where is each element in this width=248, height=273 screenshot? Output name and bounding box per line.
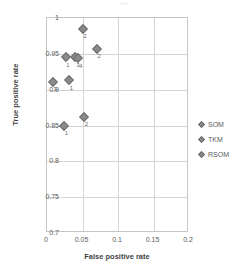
legend-item-label: TKM [208, 136, 223, 143]
data-point [79, 112, 89, 122]
gridline-vertical [118, 18, 119, 231]
legend-item[interactable]: SOM [199, 117, 245, 132]
y-tick-label: 0.85 [19, 121, 59, 128]
x-tick-label: 0.15 [146, 236, 160, 243]
y-tick-label: 0.8 [19, 157, 59, 164]
diamond-marker-icon [198, 136, 205, 143]
gridline-horizontal [47, 197, 187, 198]
x-tick-label: 0.05 [75, 236, 89, 243]
plot-area: 221343121 [46, 17, 188, 232]
data-point-label: 2 [85, 121, 88, 127]
y-tick-label: 0.9 [19, 85, 59, 92]
diamond-marker-icon [198, 121, 205, 128]
legend-item[interactable]: TKM [199, 132, 245, 147]
legend-item-label: SOM [208, 121, 224, 128]
data-point-label: 2 [98, 53, 101, 59]
gridline-horizontal [47, 161, 187, 162]
data-point-label: 4 [79, 63, 82, 69]
y-tick-label: 0.7 [19, 229, 59, 236]
data-point [59, 121, 69, 131]
gridline-vertical [154, 18, 155, 231]
diamond-marker-icon [198, 151, 205, 158]
y-tick-label: 0.75 [19, 193, 59, 200]
data-point-label: 1 [66, 62, 69, 68]
data-point-label: 1 [65, 130, 68, 136]
y-tick-label: 0.95 [19, 49, 59, 56]
x-tick-label: 0.1 [112, 236, 122, 243]
data-point [78, 24, 88, 34]
gridline-horizontal [47, 90, 187, 91]
data-point [64, 75, 74, 85]
data-point-label: 1 [70, 85, 73, 91]
y-tick-label: 1 [19, 14, 59, 21]
x-axis-title: False positive rate [46, 252, 188, 261]
legend: SOMTKMRSOM [199, 117, 245, 162]
legend-item-label: RSOM [208, 151, 229, 158]
legend-item[interactable]: RSOM [199, 147, 245, 162]
page-artifact-mark [120, 2, 128, 5]
x-tick-label: 0 [44, 236, 48, 243]
y-axis-title: True positive rate [11, 40, 20, 150]
gridline-vertical [83, 18, 84, 231]
roc-scatter-chart: 221343121 0.70.750.80.850.90.951 00.050.… [0, 0, 248, 273]
data-point-label: 2 [83, 33, 86, 39]
data-point [92, 44, 102, 54]
x-tick-label: 0.2 [183, 236, 193, 243]
